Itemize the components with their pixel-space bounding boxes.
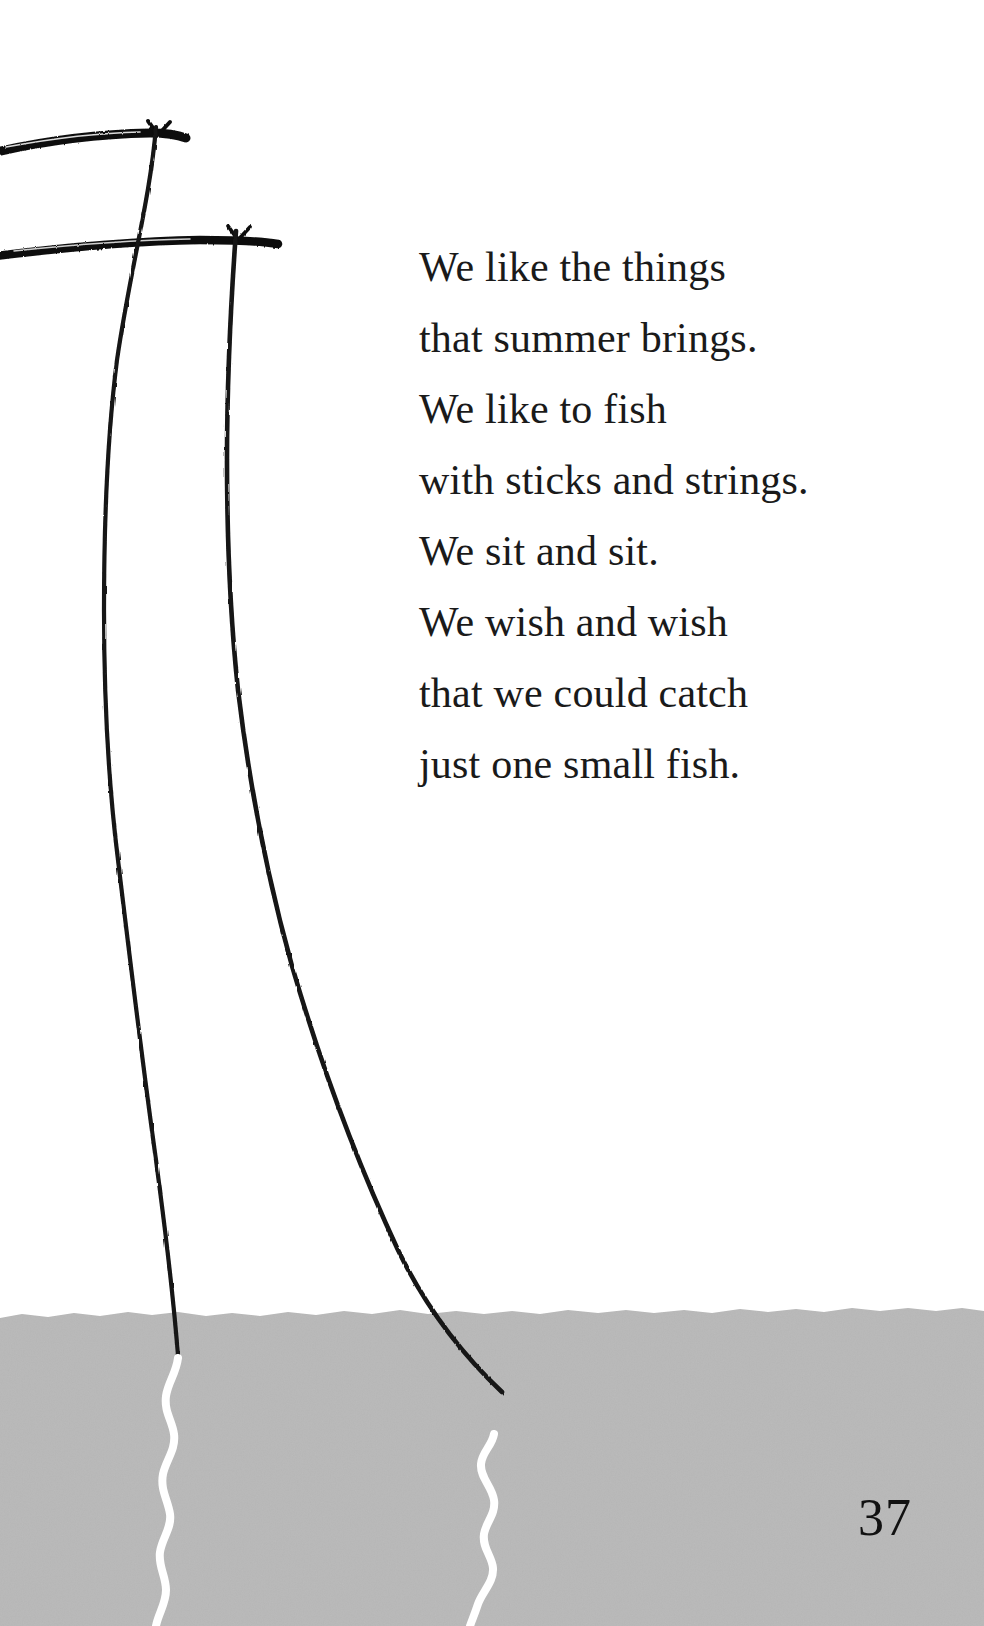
water-area: [0, 1308, 984, 1626]
fishing-rod-lower: [0, 240, 278, 256]
poem-line: We like the things: [419, 232, 939, 303]
fishing-line-left: [104, 127, 178, 1356]
water-block: [0, 1308, 984, 1626]
rod-tip-fork-upper: [148, 121, 170, 135]
poem-line: We wish and wish: [419, 587, 939, 658]
submerged-line-left: [156, 1358, 178, 1626]
poem-line: We sit and sit.: [419, 516, 939, 587]
fishing-rod-lower-highlight: [14, 239, 190, 251]
poem-line: just one small fish.: [419, 729, 939, 800]
fishing-rod-upper: [0, 133, 186, 152]
poem-line: We like to fish: [419, 374, 939, 445]
poem-line: that summer brings.: [419, 303, 939, 374]
submerged-line-right: [470, 1434, 494, 1626]
fishing-rods: [0, 121, 278, 256]
poem-line: that we could catch: [419, 658, 939, 729]
poem-line: with sticks and strings.: [419, 445, 939, 516]
page-number: 37: [858, 1488, 912, 1547]
poem-text-block: We like the things that summer brings. W…: [419, 232, 939, 800]
fishing-rod-upper-highlight: [6, 132, 140, 147]
submerged-lines: [156, 1358, 494, 1626]
rod-tip-fork-lower: [228, 226, 250, 240]
book-page: We like the things that summer brings. W…: [0, 0, 984, 1626]
